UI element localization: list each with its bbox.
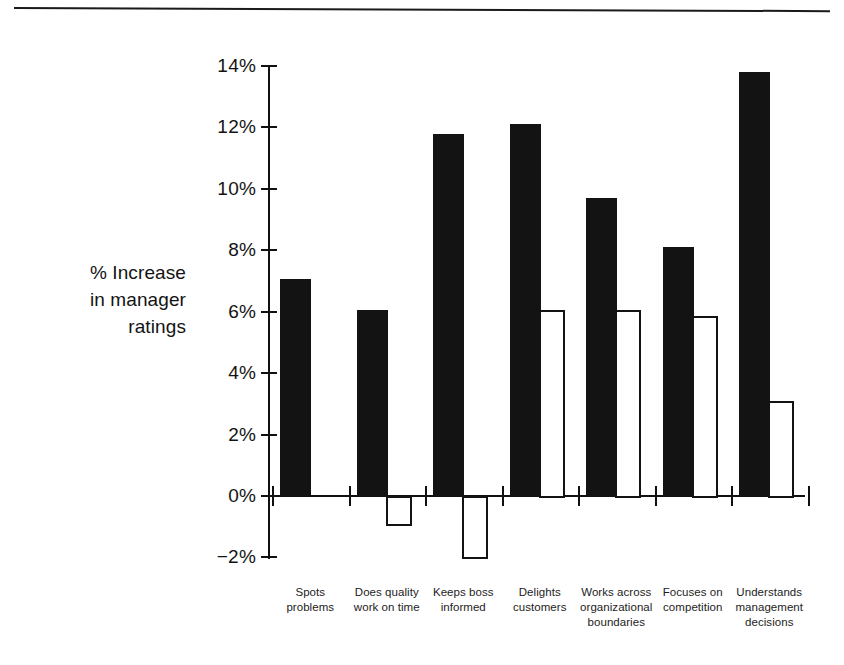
y-axis-tick-label: −2% — [186, 547, 256, 566]
bar-filled — [357, 310, 388, 496]
bar-filled — [280, 279, 311, 496]
y-axis-tick — [261, 126, 277, 128]
bar-filled — [586, 198, 617, 496]
x-axis-category-label-line: decisions — [717, 615, 822, 630]
y-axis-tick — [261, 556, 277, 558]
bar-filled — [663, 247, 694, 496]
bar-outlined — [692, 316, 718, 498]
bar-outlined — [615, 310, 641, 498]
y-axis-tick — [261, 311, 277, 313]
x-axis-tick — [349, 486, 351, 506]
y-axis-tick-label: 10% — [186, 179, 256, 198]
y-axis-tick — [261, 249, 277, 251]
bar-outlined — [768, 401, 794, 498]
bar-outlined — [386, 496, 412, 526]
y-axis-tick-label: 8% — [186, 240, 256, 259]
y-axis-tick-label: 0% — [186, 486, 256, 505]
bar-outlined — [539, 310, 565, 498]
bar-filled — [433, 134, 464, 496]
x-axis-tick — [578, 486, 580, 506]
y-axis-tick-label: 4% — [186, 363, 256, 382]
x-axis-tick — [731, 486, 733, 506]
y-axis-tick — [261, 65, 277, 67]
x-axis-tick — [808, 486, 810, 506]
x-axis-category-label-line: management — [717, 600, 822, 615]
x-axis-tick — [655, 486, 657, 506]
y-axis-tick-label: 14% — [186, 56, 256, 75]
y-axis-tick — [261, 434, 277, 436]
y-axis-tick — [261, 188, 277, 190]
x-axis-tick — [425, 486, 427, 506]
x-axis-category-label: Understandsmanagementdecisions — [717, 585, 822, 630]
x-axis-tick — [502, 486, 504, 506]
y-axis-tick — [261, 372, 277, 374]
x-axis-category-label-line: Understands — [717, 585, 822, 600]
bar-filled — [510, 124, 541, 496]
y-axis-tick-label: 2% — [186, 425, 256, 444]
bar-filled — [739, 72, 770, 496]
bar-chart-plot-area: 14%12%10%8%6%4%2%0%−2% SpotsproblemsDoes… — [0, 0, 844, 665]
x-axis-tick — [272, 486, 274, 506]
y-axis-tick-label: 12% — [186, 117, 256, 136]
x-axis-category-label-line: boundaries — [564, 615, 669, 630]
bar-outlined — [462, 496, 488, 559]
y-axis-tick-label: 6% — [186, 302, 256, 321]
